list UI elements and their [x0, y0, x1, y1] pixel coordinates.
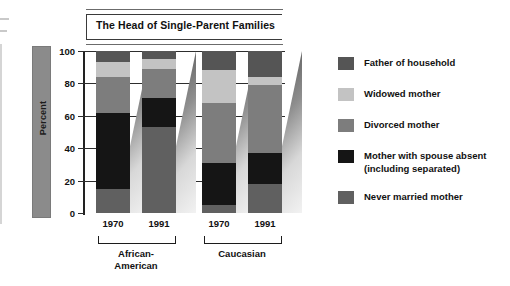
stacked-bar[interactable]: [248, 51, 282, 213]
bar-segment[interactable]: [202, 205, 236, 213]
stacked-bar[interactable]: [142, 51, 176, 213]
chart-title: The Head of Single-Parent Families: [96, 19, 275, 31]
bar-segment[interactable]: [202, 51, 236, 70]
legend-swatch: [338, 150, 354, 163]
y-tick-label: 60: [64, 110, 75, 121]
legend-item[interactable]: Father of household: [338, 57, 455, 70]
bar-segment[interactable]: [142, 69, 176, 98]
bar-segment[interactable]: [142, 59, 176, 69]
y-axis-label: Percent: [38, 83, 48, 153]
legend-label: Father of household: [364, 57, 455, 70]
bar-segment[interactable]: [96, 77, 130, 113]
legend-swatch: [338, 119, 354, 132]
bar-segment[interactable]: [142, 127, 176, 213]
group-bracket: [98, 236, 176, 244]
bar-segment[interactable]: [142, 51, 176, 59]
legend-label-line: Divorced mother: [364, 119, 440, 132]
scan-artifact: [0, 18, 9, 20]
legend-label-line: Widowed mother: [364, 88, 440, 101]
title-rule-bottom: [86, 44, 283, 45]
bar-segment[interactable]: [248, 51, 282, 77]
legend-label-line: Never married mother: [364, 191, 463, 204]
y-tick-label: 40: [64, 143, 75, 154]
title-rule-top: [86, 9, 283, 10]
legend-item[interactable]: Divorced mother: [338, 119, 440, 132]
bar-segment[interactable]: [248, 153, 282, 184]
legend-swatch: [338, 88, 354, 101]
y-tick-mark: [78, 51, 84, 52]
legend-item[interactable]: Widowed mother: [338, 88, 440, 101]
group-label-line: African-: [81, 248, 191, 260]
legend-label: Never married mother: [364, 191, 463, 204]
legend-label: Divorced mother: [364, 119, 440, 132]
legend-swatch: [338, 57, 354, 70]
legend-label: Widowed mother: [364, 88, 440, 101]
legend-label: Mother with spouse absent(including sepa…: [364, 150, 486, 175]
bar-segment[interactable]: [248, 77, 282, 85]
bar-segment[interactable]: [96, 51, 130, 62]
bar-segment[interactable]: [96, 189, 130, 213]
x-tick-label: 1991: [242, 218, 288, 229]
y-tick-mark: [78, 213, 84, 214]
bar-segment[interactable]: [248, 184, 282, 213]
x-tick-label: 1991: [136, 218, 182, 229]
chart-figure: The Head of Single-Parent Families Perce…: [0, 0, 510, 286]
group-label-line: Caucasian: [187, 248, 297, 260]
y-axis-label-bar: Percent: [32, 46, 51, 218]
legend-swatch: [338, 191, 354, 204]
bar-segment[interactable]: [202, 103, 236, 163]
bar-segment[interactable]: [96, 62, 130, 77]
scan-artifact: [0, 44, 2, 224]
bar-segment[interactable]: [142, 98, 176, 127]
group-label: Caucasian: [187, 248, 297, 260]
y-tick-label: 0: [70, 208, 75, 219]
y-tick-mark: [78, 116, 84, 117]
legend-label-line: (including separated): [364, 163, 486, 176]
plot-area: 100806040200: [84, 51, 285, 213]
x-tick-label: 1970: [196, 218, 242, 229]
legend-item[interactable]: Mother with spouse absent(including sepa…: [338, 150, 486, 175]
stacked-bar[interactable]: [96, 51, 130, 213]
stacked-bar[interactable]: [202, 51, 236, 213]
bar-segment[interactable]: [202, 70, 236, 102]
y-tick-label: 100: [59, 46, 75, 57]
group-label: African-American: [81, 248, 191, 272]
group-bracket: [204, 236, 282, 244]
y-tick-mark: [78, 148, 84, 149]
y-tick-label: 20: [64, 175, 75, 186]
y-tick-label: 80: [64, 78, 75, 89]
y-tick-mark: [78, 83, 84, 84]
legend-label-line: Father of household: [364, 57, 455, 70]
bar-segment[interactable]: [202, 163, 236, 205]
group-label-line: American: [81, 260, 191, 272]
bar-segment[interactable]: [248, 85, 282, 153]
legend-label-line: Mother with spouse absent: [364, 150, 486, 163]
y-tick-mark: [78, 181, 84, 182]
legend-item[interactable]: Never married mother: [338, 191, 463, 204]
bar-segment[interactable]: [96, 113, 130, 189]
x-tick-label: 1970: [90, 218, 136, 229]
scan-artifact: [0, 30, 7, 32]
